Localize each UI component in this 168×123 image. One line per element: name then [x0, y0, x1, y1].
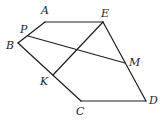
point-label-d: D — [148, 94, 158, 107]
geometry-diagram: AEPBMKCD — [0, 0, 168, 123]
point-label-a: A — [40, 4, 49, 17]
point-label-e: E — [100, 7, 109, 20]
segment-KE — [53, 22, 103, 75]
segments — [18, 22, 146, 101]
point-label-p: P — [19, 23, 28, 36]
point-label-c: C — [76, 105, 85, 118]
point-label-m: M — [128, 56, 141, 69]
segment-BC — [18, 43, 81, 101]
point-label-k: K — [39, 75, 49, 88]
point-label-b: B — [5, 39, 14, 52]
